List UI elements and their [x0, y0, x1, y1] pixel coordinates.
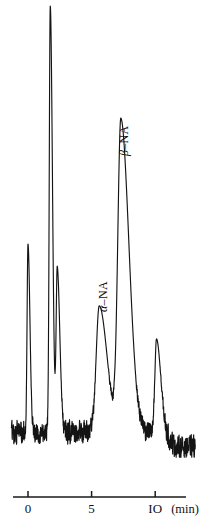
chromatogram-figure: α–NA β–NA 0 5 IO (min) — [0, 0, 214, 532]
peak-label-alpha-suffix: –NA — [96, 281, 110, 305]
chromatogram-plot — [0, 0, 214, 532]
peak-label-alpha-na: α–NA — [96, 281, 111, 312]
x-tick-label-10: IO — [135, 501, 175, 517]
peak-label-beta-suffix: –NA — [117, 125, 131, 149]
peak-label-beta-symbol: β — [117, 150, 131, 156]
peak-label-alpha-symbol: α — [96, 305, 110, 312]
x-axis-unit-label: (min) — [171, 502, 199, 517]
x-tick-label-0: 0 — [8, 501, 48, 517]
plot-background — [0, 0, 214, 532]
peak-label-beta-na: β–NA — [117, 125, 132, 156]
x-tick-label-5: 5 — [72, 501, 112, 517]
